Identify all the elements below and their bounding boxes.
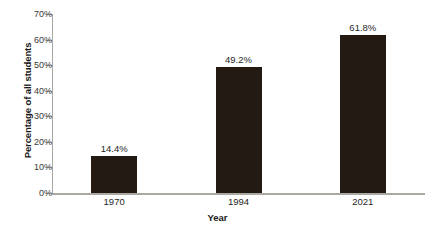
y-axis-tick-label: 40% <box>8 86 52 96</box>
x-axis-line <box>52 193 425 195</box>
bar-chart: Percentage of all students 0%10%20%30%40… <box>0 0 435 236</box>
bar-2021[interactable] <box>340 35 386 193</box>
y-axis-tick-label: 30% <box>8 111 52 121</box>
x-axis-tick-label-1994: 1994 <box>199 196 279 207</box>
y-axis-tick-label: 60% <box>8 35 52 45</box>
y-axis-tick-label: 50% <box>8 60 52 70</box>
plot-area: 14.4%49.2%61.8% <box>52 14 425 193</box>
bar-group: 49.2% <box>216 14 262 193</box>
x-axis-tick-label-1970: 1970 <box>74 196 154 207</box>
x-axis-tick-label-2021: 2021 <box>323 196 403 207</box>
bar-1994[interactable] <box>216 67 262 193</box>
y-axis-tick-label: 70% <box>8 9 52 19</box>
y-axis-tick-label: 10% <box>8 162 52 172</box>
bar-value-label: 14.4% <box>79 143 149 154</box>
bar-value-label: 49.2% <box>204 54 274 65</box>
bar-group: 61.8% <box>340 14 386 193</box>
bar-value-label: 61.8% <box>328 22 398 33</box>
y-axis-tick-label: 0% <box>8 188 52 198</box>
y-axis-tick-label: 20% <box>8 137 52 147</box>
bar-group: 14.4% <box>91 14 137 193</box>
bar-1970[interactable] <box>91 156 137 193</box>
x-axis-title: Year <box>0 212 435 223</box>
